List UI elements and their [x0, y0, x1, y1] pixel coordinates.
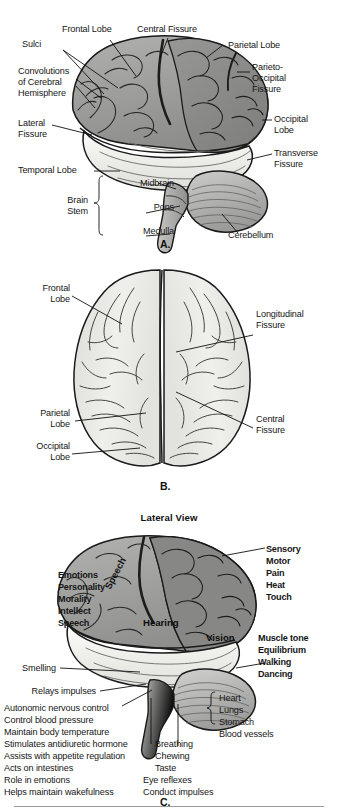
- label-smelling: Smelling: [0, 663, 56, 673]
- label-longitudinal-fissure-1: Longitudinal: [256, 309, 304, 319]
- label-b-occipital-lobe-1: Occipital: [8, 441, 70, 451]
- function-motor: Motor: [266, 556, 290, 566]
- function-touch: Touch: [266, 592, 292, 602]
- label-transverse-fissure-1: Transverse: [274, 148, 318, 158]
- label-convolutions-3: Hemisphere: [18, 88, 66, 98]
- label-relays-impulses: Relays impulses: [0, 686, 96, 696]
- medulla-item-conduct-impulses: Conduct impulses: [143, 787, 213, 797]
- function-equilibrium: Equilibrium: [258, 645, 306, 655]
- label-convolutions-2: of Cerebral: [18, 77, 62, 87]
- label-transverse-fissure-2: Fissure: [274, 159, 303, 169]
- label-parieto-occipital-2: Occipital: [252, 73, 286, 83]
- organ-item-blood-vessels: Blood vessels: [219, 729, 274, 739]
- brain-superior-illustration: [72, 270, 253, 466]
- medulla-item-eye-reflexes: Eye reflexes: [143, 775, 192, 785]
- organ-item-stomach: Stomach: [219, 717, 254, 727]
- function-emotions: Emotions: [58, 570, 98, 580]
- hypothalamus-item-0: Autonomic nervous control: [4, 703, 109, 713]
- function-speech: Speech: [58, 618, 89, 628]
- pons-item-taste: Taste: [155, 763, 176, 773]
- label-pons: Pons: [102, 202, 174, 212]
- panel-c-functional-areas: Lateral View: [0, 508, 338, 812]
- panel-a-lateral-view: Frontal Lobe Sulci Convolutions of Cereb…: [0, 0, 338, 258]
- label-b-occipital-lobe-2: Lobe: [8, 452, 70, 462]
- hypothalamus-item-7: Helps maintain wakefulness: [4, 787, 114, 797]
- pons-item-chewing: Chewing: [155, 751, 190, 761]
- function-personality: Personality: [58, 582, 105, 592]
- label-b-central-fissure-2: Fissure: [256, 425, 285, 435]
- hypothalamus-item-2: Maintain body temperature: [4, 727, 109, 737]
- label-brain-stem-1: Brain: [38, 195, 88, 205]
- hypothalamus-item-3: Stimulates antidiuretic hormone: [4, 739, 128, 749]
- function-walking: Walking: [258, 657, 291, 667]
- panel-letter-b: B.: [160, 480, 171, 492]
- function-morality: Morality: [58, 594, 91, 604]
- brain-anatomy-figure: Frontal Lobe Sulci Convolutions of Cereb…: [0, 0, 338, 812]
- label-lateral-fissure-2: Fissure: [18, 129, 47, 139]
- bottom-divider-rule: [14, 806, 324, 807]
- label-b-parietal-lobe-2: Lobe: [8, 419, 70, 429]
- label-medulla: Medulla: [102, 226, 174, 236]
- label-sulci: Sulci: [22, 39, 41, 49]
- label-central-fissure: Central Fissure: [137, 24, 197, 34]
- function-pain: Pain: [266, 568, 284, 578]
- panel-letter-a: A.: [160, 238, 171, 250]
- function-heat: Heat: [266, 580, 285, 590]
- label-b-frontal-lobe-2: Lobe: [8, 294, 70, 304]
- hypothalamus-item-4: Assists with appetite regulation: [4, 751, 125, 761]
- panel-b-superior-view: Frontal Lobe Parietal Lobe Occipital Lob…: [0, 258, 338, 508]
- label-b-central-fissure-1: Central: [256, 414, 284, 424]
- function-dancing: Dancing: [258, 669, 292, 679]
- brain-lateral-illustration: [52, 36, 272, 253]
- organ-item-lungs: Lungs: [219, 705, 243, 715]
- label-parietal-lobe: Parietal Lobe: [228, 40, 280, 50]
- label-parieto-occipital-3: Fissure: [252, 84, 281, 94]
- function-intellect: Intellect: [58, 606, 91, 616]
- pons-item-breathing: Breathing: [155, 739, 193, 749]
- on-brain-label-vision: Vision: [206, 632, 235, 643]
- hypothalamus-item-1: Control blood pressure: [4, 715, 93, 725]
- label-convolutions-1: Convolutions: [18, 66, 69, 76]
- function-muscle-tone: Muscle tone: [258, 633, 308, 643]
- on-brain-label-hearing: Hearing: [143, 617, 179, 628]
- label-cerebellum: Cerebellum: [228, 230, 273, 240]
- label-lateral-fissure-1: Lateral: [18, 118, 45, 128]
- label-longitudinal-fissure-2: Fissure: [256, 320, 285, 330]
- label-b-frontal-lobe-1: Frontal: [8, 283, 70, 293]
- label-occipital-lobe-1: Occipital: [274, 114, 308, 124]
- label-frontal-lobe: Frontal Lobe: [62, 24, 112, 34]
- label-occipital-lobe-2: Lobe: [274, 125, 294, 135]
- hypothalamus-item-5: Acts on intestines: [4, 763, 73, 773]
- function-sensory: Sensory: [266, 544, 301, 554]
- label-parieto-occipital-1: Parieto-: [252, 62, 283, 72]
- label-temporal-lobe: Temporal Lobe: [18, 165, 77, 175]
- label-midbrain: Midbrain: [102, 178, 174, 188]
- organ-item-heart: Heart: [219, 693, 241, 703]
- label-brain-stem-2: Stem: [38, 206, 88, 216]
- label-b-parietal-lobe-1: Parietal: [8, 408, 70, 418]
- hypothalamus-item-6: Role in emotions: [4, 775, 70, 785]
